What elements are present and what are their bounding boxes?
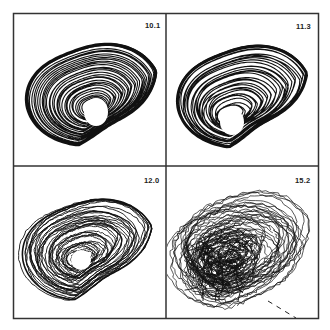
attractor-trace (26, 44, 156, 145)
dashed-tail (268, 301, 296, 318)
panel-label-top-right: 11.3 (296, 22, 311, 31)
phase-portrait-figure (0, 0, 330, 330)
attractor-hole (84, 98, 108, 126)
attractor-hole (71, 250, 91, 270)
attractor-hole (220, 109, 244, 135)
attractor-trace (19, 199, 152, 300)
panel-label-top-left: 10.1 (145, 21, 160, 30)
attractor-trace (164, 190, 310, 318)
panel-label-bottom-right: 15.2 (295, 176, 310, 185)
panel-label-bottom-left: 12.0 (144, 176, 159, 185)
attractor-trace (177, 45, 306, 147)
